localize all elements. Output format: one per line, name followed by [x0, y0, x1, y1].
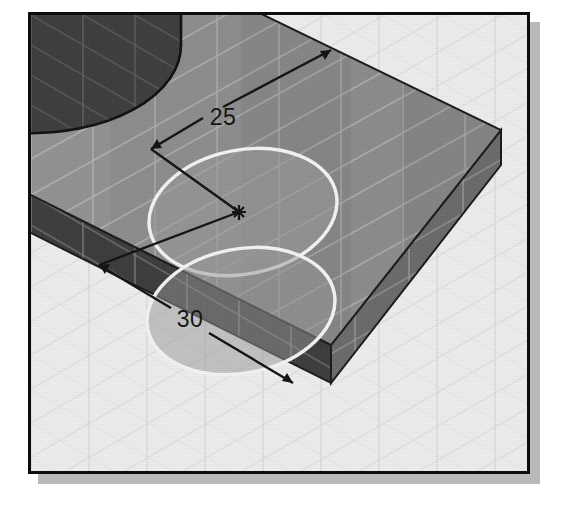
cad-canvas[interactable]: 25 30 — [31, 15, 527, 471]
cad-viewport[interactable]: 25 30 — [28, 12, 530, 474]
dimension-30-label: 30 — [177, 306, 204, 332]
screenshot-stage: 25 30 — [0, 0, 567, 510]
dimension-25-label: 25 — [210, 104, 237, 130]
